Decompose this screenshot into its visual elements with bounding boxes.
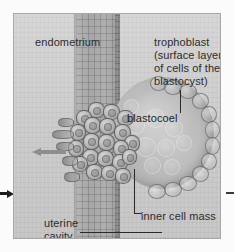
- trophoblast-leader-line: [180, 90, 181, 113]
- trophoblast-projection: [62, 156, 78, 166]
- right-edge-tick-mark: [226, 192, 234, 194]
- label-blastocoel: blastocoel: [127, 112, 178, 125]
- inner-cell-mass-leader-line: [134, 169, 135, 213]
- arrow-head: [32, 148, 41, 156]
- label-endometrium: endometrium: [35, 36, 100, 49]
- trophoblast-cell: [164, 182, 182, 197]
- label-uterine-cavity: uterine cavity: [44, 217, 78, 239]
- implantation-direction-arrow-icon: [32, 148, 66, 155]
- label-inner-cell-mass: inner cell mass: [141, 210, 216, 223]
- blastocoel-vesicle: [176, 135, 192, 151]
- uterine-cavity-leader-line: [80, 232, 162, 233]
- figure-container: endometrium trophoblast (surface layer o…: [0, 0, 234, 252]
- blastocoel-vesicle: [144, 157, 161, 174]
- trophoblast-projection: [64, 172, 80, 182]
- inner-cell: [122, 149, 137, 165]
- trophoblast-projection: [52, 130, 74, 139]
- inner-cell: [115, 168, 131, 184]
- blastocoel-vesicle: [157, 139, 175, 157]
- trophoblast-projection: [58, 118, 74, 127]
- diagram-panel: endometrium trophoblast (surface layer o…: [13, 13, 221, 239]
- label-trophoblast: trophoblast (surface layer of cells of t…: [154, 36, 221, 88]
- arrow-shaft: [40, 150, 66, 154]
- blastocoel-vesicle: [164, 159, 180, 175]
- trophoblast-cell: [148, 184, 166, 199]
- uterine-cavity-direction-arrow-icon: [0, 190, 14, 197]
